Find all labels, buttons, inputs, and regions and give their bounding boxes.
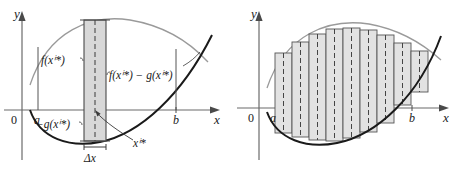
label-delta-x: Δx — [83, 152, 97, 164]
table-row — [326, 29, 343, 141]
left-tick-b-label: b — [173, 113, 179, 127]
table-row — [343, 28, 360, 138]
right-x-axis-label: x — [442, 110, 449, 125]
left-y-axis-label: y — [12, 6, 20, 21]
label-minus-g: −g(xⁱ*) — [36, 118, 70, 131]
panel-left-single-rectangle: y x 0 a b f(xⁱ*) f(xⁱ*) − g(xⁱ*) −g(xⁱ*)… — [0, 0, 228, 169]
delta-x-measure — [84, 144, 106, 150]
right-tick-a-label: a — [270, 111, 276, 125]
right-y-axis — [255, 11, 262, 160]
table-row — [275, 53, 292, 133]
left-panel-svg: y x 0 a b f(xⁱ*) f(xⁱ*) − g(xⁱ*) −g(xⁱ*)… — [0, 0, 228, 169]
right-y-axis-label: y — [249, 6, 257, 21]
riemann-rectangles — [275, 28, 428, 141]
table-row — [377, 35, 394, 123]
representative-rectangle — [80, 20, 110, 141]
table-row — [360, 30, 377, 132]
right-panel-svg: y x 0 a b — [229, 0, 457, 169]
left-origin-label: 0 — [11, 113, 17, 127]
left-y-axis — [18, 11, 25, 160]
figure-root: y x 0 a b f(xⁱ*) f(xⁱ*) − g(xⁱ*) −g(xⁱ*)… — [0, 0, 457, 169]
minus-g-leader — [79, 122, 82, 125]
label-f-minus-g: f(xⁱ*) − g(xⁱ*) — [109, 69, 173, 82]
f-value-leader — [80, 58, 83, 61]
table-row — [309, 34, 326, 140]
right-tick-b-label: b — [409, 111, 415, 125]
panel-right-riemann-sum: y x 0 a b — [229, 0, 457, 169]
label-sample-point: xⁱ* — [132, 137, 146, 149]
table-row — [292, 42, 309, 137]
right-origin-label: 0 — [248, 111, 254, 125]
label-f-value: f(xⁱ*) — [41, 54, 65, 67]
left-x-axis-label: x — [213, 112, 220, 127]
